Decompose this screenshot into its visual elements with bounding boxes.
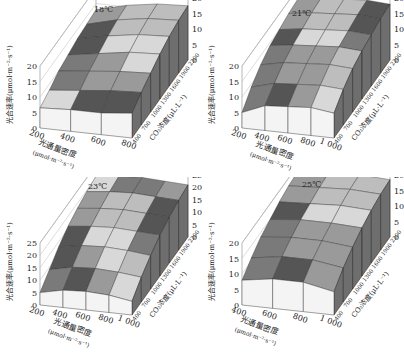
z-tick-right: 10 <box>394 202 404 211</box>
z-tick-right: 15 <box>192 10 202 19</box>
z-tick-right: 20 <box>394 177 404 180</box>
z-tick-left: 10 <box>27 93 37 102</box>
x-tick: 800 <box>299 135 316 149</box>
panel-title-25c: 25℃ <box>302 180 321 189</box>
z-tick-left: 15 <box>27 264 37 273</box>
z-tick-left: 5 <box>234 109 239 118</box>
x-tick: 800 <box>97 312 114 326</box>
z-axis-title: 光合速率(μmol·m⁻²·s⁻¹) <box>207 45 216 124</box>
x-tick: 600 <box>89 134 106 148</box>
z-tick-left: 20 <box>27 251 37 260</box>
surface-chart-25c: 00551010151520204006008001 0004007001000… <box>202 177 404 354</box>
z-tick-left: 10 <box>229 93 239 102</box>
z-tick-right: 10 <box>192 25 202 34</box>
z-tick-right: 15 <box>394 187 404 196</box>
z-tick-left: 10 <box>27 276 37 285</box>
panel-25c: 00551010151520204006008001 0004007001000… <box>202 177 404 354</box>
surface-chart-18c: 0055101015152020200400600800400700100013… <box>0 0 202 177</box>
z-tick-left: 15 <box>27 78 37 87</box>
x-tick: 200 <box>28 305 45 319</box>
panel-title-18c: 18℃ <box>94 5 113 14</box>
z-tick-left: 10 <box>229 270 239 279</box>
z-tick-left: 5 <box>32 289 37 298</box>
z-tick-right: 20 <box>192 0 202 3</box>
panel-21c: 00551010151520202004006008001 0004007001… <box>202 0 404 177</box>
x-tick: 800 <box>291 311 308 325</box>
x-tick: 400 <box>59 131 76 145</box>
surface-chart-21c: 00551010151520202004006008001 0004007001… <box>202 0 404 177</box>
surface-chart-23c: 005510101515202025252004006008001 000400… <box>0 177 202 354</box>
z-tick-left: 20 <box>229 239 239 248</box>
z-tick-left: 5 <box>234 286 239 295</box>
x-tick: 600 <box>261 308 278 322</box>
panel-title-23c: 23℃ <box>88 182 107 191</box>
z-axis-title: 光合速率(μmol·m⁻²·s⁻¹) <box>5 222 14 301</box>
z-tick-right: 5 <box>394 218 399 227</box>
z-tick-right: 10 <box>192 208 202 217</box>
z-tick-left: 20 <box>229 62 239 71</box>
z-axis-title: 光合速率(μmol·m⁻²·s⁻¹) <box>5 45 14 124</box>
z-tick-left: 20 <box>27 62 37 71</box>
x-tick: 200 <box>230 128 247 142</box>
z-tick-right: 15 <box>394 10 404 19</box>
z-tick-left: 15 <box>229 255 239 264</box>
panel-title-21c: 21℃ <box>292 9 311 18</box>
z-tick-left: 25 <box>27 239 37 248</box>
z-tick-right: 5 <box>192 41 197 50</box>
z-tick-left: 15 <box>229 78 239 87</box>
z-tick-right: 5 <box>394 41 399 50</box>
z-tick-left: 5 <box>32 109 37 118</box>
z-axis-title: 光合速率(μmol·m⁻²·s⁻¹) <box>207 222 216 301</box>
z-tick-right: 15 <box>192 196 202 205</box>
z-tick-right: 10 <box>394 25 404 34</box>
z-tick-right: 25 <box>192 177 202 180</box>
panel-23c: 005510101515202025252004006008001 000400… <box>0 177 202 354</box>
z-tick-right: 5 <box>192 221 197 230</box>
x-tick: 600 <box>276 133 293 147</box>
z-tick-right: 20 <box>394 0 404 3</box>
x-tick: 600 <box>74 310 91 324</box>
panel-18c: 0055101015152020200400600800400700100013… <box>0 0 202 177</box>
z-tick-right: 20 <box>192 183 202 192</box>
